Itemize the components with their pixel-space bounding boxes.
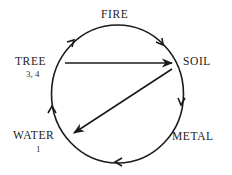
node-sub-water: 1 — [36, 145, 41, 154]
arrowhead-metal-to-water — [115, 158, 122, 166]
arrowhead-water-to-tree — [48, 106, 56, 113]
diagram-svg — [0, 0, 232, 175]
node-label-fire: FIRE — [101, 9, 128, 21]
node-sub-tree: 3, 4 — [26, 70, 40, 79]
node-label-metal: METAL — [172, 131, 214, 143]
node-label-soil: SOIL — [183, 56, 211, 68]
five-elements-diagram: FIRE SOIL METAL WATER 1 TREE 3, 4 — [0, 0, 232, 175]
arrow-soil-to-water — [74, 69, 172, 133]
node-label-water: WATER — [13, 130, 54, 142]
node-label-tree: TREE — [15, 56, 46, 68]
